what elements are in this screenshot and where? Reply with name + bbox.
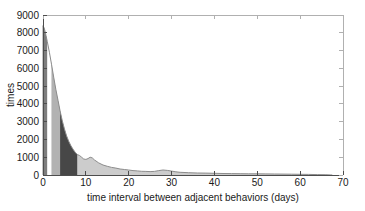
area-outline bbox=[43, 26, 332, 175]
y-tick-label: 1000 bbox=[17, 152, 40, 163]
x-tick-label: 10 bbox=[80, 177, 92, 188]
y-tick-label: 4000 bbox=[17, 98, 40, 109]
y-tick-label: 3000 bbox=[17, 116, 40, 127]
y-tick-label: 0 bbox=[33, 170, 39, 181]
band-1-2-days bbox=[47, 15, 51, 175]
x-tick-label: 70 bbox=[337, 177, 349, 188]
x-tick-label: 0 bbox=[40, 177, 46, 188]
figure: 0102030405060700100020003000400050006000… bbox=[0, 0, 365, 211]
x-tick-label: 40 bbox=[209, 177, 221, 188]
y-tick-label: 2000 bbox=[17, 134, 40, 145]
band-2-4-days bbox=[52, 15, 61, 175]
x-tick-label: 50 bbox=[252, 177, 264, 188]
area-series bbox=[43, 26, 332, 175]
y-tick-label: 6000 bbox=[17, 63, 40, 74]
y-tick-label: 8000 bbox=[17, 27, 40, 38]
x-axis-title: time interval between adjacent behaviors… bbox=[43, 192, 343, 204]
x-tick-label: 20 bbox=[123, 177, 135, 188]
x-tick-label: 30 bbox=[166, 177, 178, 188]
y-axis-title: times bbox=[5, 55, 17, 135]
histogram-chart: 0102030405060700100020003000400050006000… bbox=[0, 0, 365, 211]
y-tick-label: 5000 bbox=[17, 81, 40, 92]
y-tick-label: 9000 bbox=[17, 10, 40, 21]
y-tick-label: 7000 bbox=[17, 45, 40, 56]
x-tick-label: 60 bbox=[295, 177, 307, 188]
